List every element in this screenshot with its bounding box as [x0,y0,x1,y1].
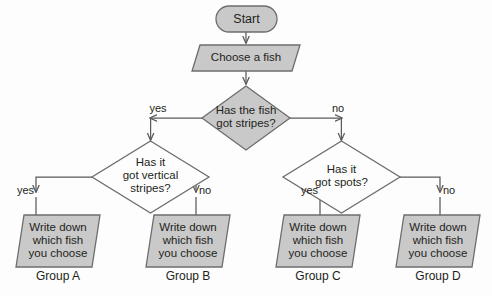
node-output-a-shape [16,215,100,267]
node-decision-stripes-shape [202,86,290,150]
flowchart-graphics [0,0,492,296]
node-start-shape [216,6,277,32]
node-decision-vertical-stripes-shape [92,141,209,213]
node-output-c-shape [276,215,360,267]
flowchart-canvas: Start Choose a fish Has the fish got str… [0,0,492,296]
node-output-b-shape [146,215,230,267]
edge-spots-no [400,177,440,192]
node-decision-spots-shape [283,141,400,213]
node-choose-fish-shape [192,45,300,71]
node-output-d-shape [396,215,480,267]
edge-vertical-yes [36,177,92,192]
